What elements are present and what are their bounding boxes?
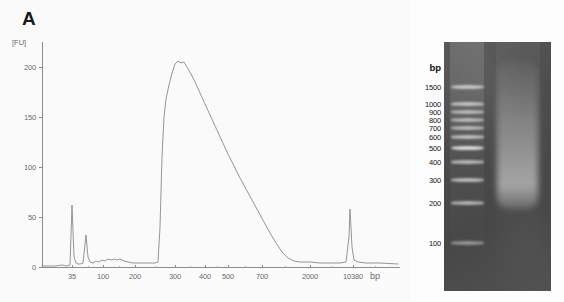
ladder-size-label: 300 <box>411 176 441 185</box>
ladder-size-label: 400 <box>411 158 441 167</box>
electropherogram-trace <box>0 0 410 302</box>
ladder-band <box>451 135 484 139</box>
gel-bp-title: bp <box>412 62 441 73</box>
figure-root: A [FU] 050100150200 35100200300400500700… <box>0 0 564 302</box>
ladder-size-label: 200 <box>411 199 441 208</box>
ladder-band <box>451 126 484 129</box>
ladder-lane <box>450 42 484 291</box>
ladder-band <box>451 241 484 244</box>
panel-b-gel: B bp 15001000900800700600500400300200100 <box>410 0 564 302</box>
ladder-band <box>451 110 484 113</box>
panel-a-electropherogram: A [FU] 050100150200 35100200300400500700… <box>0 0 410 302</box>
ladder-band <box>451 102 484 106</box>
ladder-size-label: 100 <box>411 239 441 248</box>
ladder-size-label: 700 <box>411 124 441 133</box>
ladder-band <box>451 85 484 89</box>
ladder-size-label: 600 <box>411 133 441 142</box>
ladder-size-label: 1500 <box>411 83 441 92</box>
ladder-band <box>451 201 484 205</box>
ladder-band <box>451 160 484 164</box>
ladder-size-label: 500 <box>411 144 441 153</box>
sample-smear-band <box>497 60 538 210</box>
ladder-band <box>451 178 484 182</box>
ladder-band <box>451 118 484 121</box>
gel-image <box>444 42 551 291</box>
